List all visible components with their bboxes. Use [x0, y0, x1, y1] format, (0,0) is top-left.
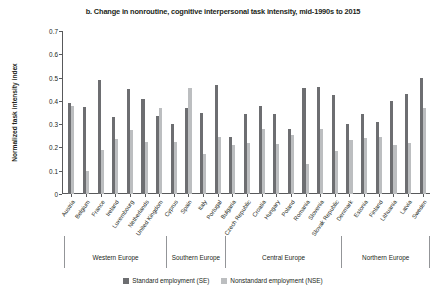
bar-group: [371, 31, 386, 194]
bar-nonstandard-employment[interactable]: [115, 139, 118, 194]
region-band: Northern Europe: [341, 246, 430, 268]
bar-group: [152, 31, 167, 194]
x-label-slot: Estonia: [357, 194, 372, 246]
x-tick-mark: [423, 194, 424, 197]
bar-nonstandard-employment[interactable]: [408, 143, 411, 194]
bar-group: [284, 31, 299, 194]
x-label-slot: Belgium: [79, 194, 94, 246]
legend-item[interactable]: Standard employment (SE): [123, 277, 209, 284]
bar-group: [64, 31, 79, 194]
chart-legend: Standard employment (SE)Nonstandard empl…: [0, 277, 446, 284]
bar-nonstandard-employment[interactable]: [306, 164, 309, 194]
bar-group: [313, 31, 328, 194]
x-tick-mark: [130, 194, 131, 197]
x-tick-mark: [291, 194, 292, 197]
bar-group: [298, 31, 313, 194]
bar-group: [196, 31, 211, 194]
x-tick-mark: [262, 194, 263, 197]
plot-area: 00.10.20.30.40.50.60.7: [62, 31, 430, 194]
region-divider: [166, 236, 167, 246]
bar-nonstandard-employment[interactable]: [247, 143, 250, 194]
bar-nonstandard-employment[interactable]: [320, 129, 323, 194]
y-tick-label: 0.7: [49, 28, 58, 35]
y-tick-label: 0.6: [49, 51, 58, 58]
x-axis-labels: AustriaBelgiumFranceIrelandLuxembourgNet…: [62, 194, 430, 246]
bar-nonstandard-employment[interactable]: [188, 88, 191, 194]
x-tick-mark: [408, 194, 409, 197]
bar-nonstandard-employment[interactable]: [174, 142, 177, 194]
bar-nonstandard-employment[interactable]: [203, 154, 206, 194]
bar-group: [166, 31, 181, 194]
legend-label: Nonstandard employment (NSE): [230, 277, 322, 284]
y-axis-title-label: Normalized task intensity index: [11, 63, 18, 162]
x-tick-label: France: [90, 199, 105, 217]
bar-series-container: [62, 31, 430, 194]
region-label: Southern Europe: [172, 254, 220, 261]
x-tick-mark: [335, 194, 336, 197]
bar-nonstandard-employment[interactable]: [291, 135, 294, 194]
x-label-slot: Austria: [64, 194, 79, 246]
x-tick-mark: [218, 194, 219, 197]
bar-group: [328, 31, 343, 194]
bar-group: [123, 31, 138, 194]
x-tick-mark: [101, 194, 102, 197]
region-divider: [429, 236, 430, 246]
x-label-slot: France: [93, 194, 108, 246]
bar-group: [254, 31, 269, 194]
legend-item[interactable]: Nonstandard employment (NSE): [221, 277, 322, 284]
bar-nonstandard-employment[interactable]: [335, 151, 338, 194]
y-tick-label: 0.4: [49, 97, 58, 104]
x-tick-mark: [86, 194, 87, 197]
x-tick-label: Spain: [180, 199, 194, 215]
bar-group: [401, 31, 416, 194]
region-divider: [225, 236, 226, 246]
bar-nonstandard-employment[interactable]: [145, 142, 148, 194]
region-divider: [64, 236, 65, 246]
x-tick-mark: [276, 194, 277, 197]
x-label-slot: Lithuania: [386, 194, 401, 246]
region-label: Central Europe: [262, 254, 305, 261]
x-tick-mark: [393, 194, 394, 197]
region-band: Western Europe: [64, 246, 166, 268]
bar-nonstandard-employment[interactable]: [101, 150, 104, 194]
bar-nonstandard-employment[interactable]: [232, 145, 235, 194]
bar-nonstandard-employment[interactable]: [276, 144, 279, 194]
y-tick-label: 0.1: [49, 167, 58, 174]
x-tick-mark: [115, 194, 116, 197]
region-bands: Western EuropeSouthern EuropeCentral Eur…: [62, 246, 430, 268]
bar-nonstandard-employment[interactable]: [130, 130, 133, 194]
bar-nonstandard-employment[interactable]: [86, 171, 89, 194]
bar-nonstandard-employment[interactable]: [393, 145, 396, 194]
x-label-slot: Cyprus: [166, 194, 181, 246]
bar-group: [225, 31, 240, 194]
bar-nonstandard-employment[interactable]: [349, 140, 352, 194]
legend-swatch-nonstandard: [221, 278, 227, 284]
bar-group: [342, 31, 357, 194]
x-tick-mark: [174, 194, 175, 197]
bar-nonstandard-employment[interactable]: [423, 108, 426, 194]
bar-nonstandard-employment[interactable]: [159, 108, 162, 194]
x-label-slot: Sweden: [415, 194, 430, 246]
y-tick-label: 0.2: [49, 144, 58, 151]
x-tick-mark: [188, 194, 189, 197]
x-tick-mark: [145, 194, 146, 197]
bar-group: [269, 31, 284, 194]
y-tick-label: 0.3: [49, 121, 58, 128]
bar-nonstandard-employment[interactable]: [262, 129, 265, 194]
bar-group: [137, 31, 152, 194]
bar-group: [210, 31, 225, 194]
bar-nonstandard-employment[interactable]: [364, 138, 367, 194]
x-label-slot: Spain: [181, 194, 196, 246]
bar-nonstandard-employment[interactable]: [379, 137, 382, 194]
region-label: Northern Europe: [362, 254, 409, 261]
bar-group: [79, 31, 94, 194]
x-label-slot: Hungary: [269, 194, 284, 246]
y-tick-label: 0: [54, 191, 58, 198]
bar-nonstandard-employment[interactable]: [218, 137, 221, 194]
bar-group: [357, 31, 372, 194]
region-divider: [341, 236, 342, 246]
bar-group: [386, 31, 401, 194]
y-tick-label: 0.5: [49, 74, 58, 81]
legend-label: Standard employment (SE): [132, 277, 209, 284]
bar-nonstandard-employment[interactable]: [71, 106, 74, 194]
